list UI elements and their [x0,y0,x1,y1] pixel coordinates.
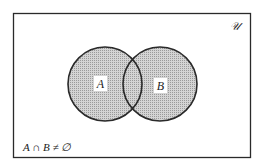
intersection-statement: A ∩ B ≠ ∅ [22,141,71,153]
set-b-label: B [157,79,165,93]
set-a-label: A [96,77,105,91]
venn-diagram: 𝒰 A B A ∩ B ≠ ∅ [0,0,267,164]
